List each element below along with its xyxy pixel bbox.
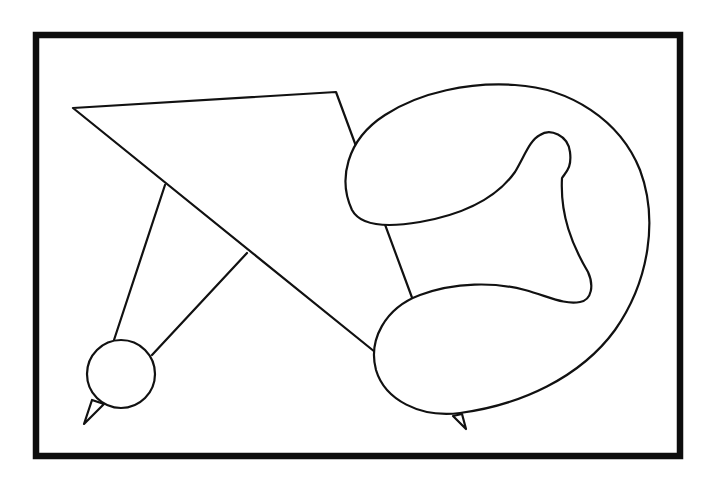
line-drawing-figure	[0, 0, 713, 481]
blob-spike	[453, 414, 466, 429]
large-quadrilateral	[73, 92, 414, 352]
small-circle	[87, 340, 155, 408]
right-strut	[152, 253, 247, 355]
curled-loop-blob	[346, 84, 650, 413]
left-strut	[114, 185, 165, 340]
circle-spike	[84, 400, 104, 424]
